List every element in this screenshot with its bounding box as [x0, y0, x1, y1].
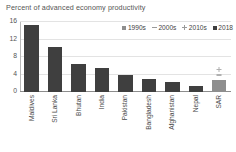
bar [212, 80, 227, 92]
x-label-cell: Maldives [20, 93, 43, 151]
bar [48, 47, 63, 92]
bar [24, 25, 39, 92]
bar-column [90, 22, 113, 92]
x-axis-category-label: India [99, 95, 106, 109]
x-axis-category-label: Bangladesh [146, 95, 153, 130]
series-marker-2000s [217, 72, 222, 77]
bar-column [161, 22, 184, 92]
plot-area: 0481216 [20, 22, 231, 92]
x-label-cell: Bangladesh [137, 93, 160, 151]
bar [189, 86, 204, 92]
x-label-cell: Pakistan [114, 93, 137, 151]
y-axis-tick-label: 16 [9, 19, 17, 26]
x-axis-category-label: Sri Lanka [52, 95, 59, 123]
bar-column [114, 22, 137, 92]
bar-column [43, 22, 66, 92]
bar [165, 82, 180, 93]
y-axis-tick-label: 0 [13, 89, 17, 96]
y-axis-tick-label: 4 [13, 71, 17, 78]
x-axis-category-label: Pakistan [122, 95, 129, 120]
x-label-cell: Sri Lanka [43, 93, 66, 151]
bar-column [20, 22, 43, 92]
bar-column [137, 22, 160, 92]
x-axis-category-label: Afghanistan [169, 95, 176, 130]
bar-column [67, 22, 90, 92]
x-label-cell: Bhutan [67, 93, 90, 151]
bar-series [20, 22, 231, 92]
bar-column [208, 22, 231, 92]
y-axis-tick-label: 8 [13, 54, 17, 61]
x-label-cell: Nepal [184, 93, 207, 151]
y-axis-tick-label: 12 [9, 36, 17, 43]
x-axis-category-label: Maldives [28, 95, 35, 121]
x-label-cell: Afghanistan [161, 93, 184, 151]
series-marker-2010s [217, 67, 222, 72]
bar [142, 79, 157, 92]
chart-title: Percent of advanced economy productivity [6, 3, 145, 12]
x-label-cell: India [90, 93, 113, 151]
x-label-cell: SAR [208, 93, 231, 151]
x-axis-category-label: Nepal [192, 95, 199, 112]
x-axis-labels: MaldivesSri LankaBhutanIndiaPakistanBang… [20, 93, 231, 151]
bar [95, 68, 110, 93]
bar-chart: Percent of advanced economy productivity… [0, 0, 236, 152]
bar [71, 64, 86, 92]
x-axis-category-label: Bhutan [75, 95, 82, 116]
x-axis-category-label: SAR [216, 95, 223, 109]
bar-column [184, 22, 207, 92]
bar [118, 75, 133, 93]
